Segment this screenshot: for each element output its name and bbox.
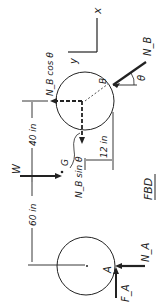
svg-text:12 in: 12 in bbox=[99, 135, 109, 158]
x-axis-label: x bbox=[91, 7, 104, 15]
svg-text:60 in: 60 in bbox=[28, 203, 38, 226]
g-label: G bbox=[60, 159, 70, 166]
axes: x y bbox=[68, 7, 104, 65]
nb-sin-label: N_B sin θ bbox=[74, 156, 84, 198]
w-label: W bbox=[11, 163, 22, 174]
fa-label: F_A bbox=[120, 284, 132, 302]
fbd-diagram: x y B θ N_B N_B cos θ N_B sin θ 12 in 40… bbox=[0, 0, 166, 304]
svg-text:40 in: 40 in bbox=[28, 123, 38, 146]
y-axis-label: y bbox=[68, 57, 79, 65]
point-a-label: A bbox=[102, 266, 113, 274]
nb-label: N_B bbox=[142, 37, 154, 56]
na-label: N_A bbox=[140, 243, 152, 262]
nb-cos-label: N_B cos θ bbox=[45, 52, 55, 96]
dimension-12in: 12 in bbox=[85, 112, 113, 170]
fbd-title: FBD bbox=[142, 178, 155, 200]
point-b-label: B bbox=[98, 78, 108, 84]
radius-dashed bbox=[85, 84, 108, 101]
angle-theta-label: θ bbox=[136, 75, 147, 81]
weight-force: W G bbox=[11, 159, 70, 182]
